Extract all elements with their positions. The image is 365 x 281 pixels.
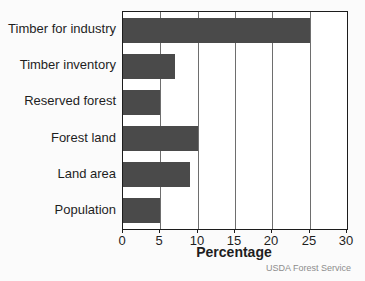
gridline — [198, 12, 199, 229]
x-axis-label: Percentage — [122, 244, 346, 260]
gridline — [160, 12, 161, 229]
bar — [123, 198, 160, 223]
bar — [123, 126, 198, 151]
bar — [123, 90, 160, 115]
gridline — [272, 12, 273, 229]
category-label: Land area — [0, 166, 116, 181]
category-label: Timber inventory — [0, 57, 116, 72]
bar-chart: Timber for industryTimber inventoryReser… — [0, 0, 365, 281]
gridline — [235, 12, 236, 229]
source-attribution: USDA Forest Service — [266, 263, 351, 273]
bar — [123, 18, 310, 43]
category-label: Forest land — [0, 130, 116, 145]
category-label: Timber for industry — [0, 21, 116, 36]
category-label: Reserved forest — [0, 93, 116, 108]
bar — [123, 54, 175, 79]
plot-area — [122, 11, 348, 230]
category-label: Population — [0, 202, 116, 217]
bar — [123, 162, 190, 187]
gridline — [310, 12, 311, 229]
